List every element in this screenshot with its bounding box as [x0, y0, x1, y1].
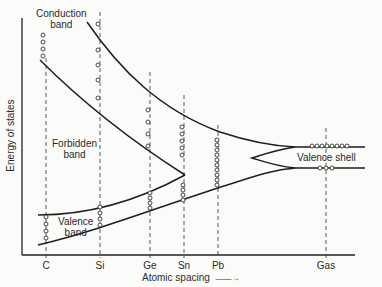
- tick-gas: Gas: [317, 260, 335, 271]
- conduction-band-lower-edge: [87, 22, 365, 147]
- valence-band-label: Valence band: [58, 216, 93, 238]
- tick-ge: Ge: [143, 260, 156, 271]
- valence-label-line1: Valence: [58, 216, 93, 227]
- conduction-label-line1: Conduction: [36, 8, 87, 19]
- valence-shell-split: [252, 147, 295, 168]
- x-axis-title: Atomic spacing: [142, 272, 210, 283]
- arrow-right-icon: ——→: [216, 274, 240, 283]
- valence-band-upper-edge: [38, 175, 185, 215]
- forbidden-band-label: Forbidden band: [52, 138, 97, 160]
- conduction-band-label: Conduction band: [36, 8, 87, 30]
- valence-label-line2: band: [58, 227, 93, 238]
- conduction-label-line2: band: [36, 19, 87, 30]
- forbidden-label-line2: band: [52, 149, 97, 160]
- y-axis-label: Energy of states: [5, 96, 16, 176]
- tick-c: C: [42, 260, 49, 271]
- tick-sn: Sn: [178, 260, 190, 271]
- tick-si: Si: [96, 260, 105, 271]
- valence-shell-label: Valence shell: [297, 152, 356, 163]
- state-markers: [41, 22, 349, 240]
- x-axis-label: Atomic spacing ——→: [142, 272, 240, 283]
- forbidden-label-line1: Forbidden: [52, 138, 97, 149]
- tick-pb: Pb: [212, 260, 224, 271]
